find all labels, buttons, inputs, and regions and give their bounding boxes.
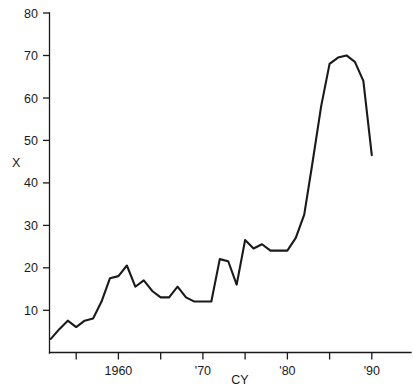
x-tick-label: 1960 (104, 364, 132, 378)
y-tick-label: 40 (24, 176, 38, 190)
x-axis-ticks (76, 353, 372, 360)
line-chart: 80 70 60 50 40 30 20 10 X 1960 '70 '80 (0, 0, 413, 391)
y-tick-label: 30 (24, 219, 38, 233)
y-tick-label: 20 (24, 261, 38, 275)
y-tick-label: 60 (24, 92, 38, 106)
x-tick-label: '90 (364, 364, 380, 378)
chart-container: 80 70 60 50 40 30 20 10 X 1960 '70 '80 (0, 0, 413, 391)
y-axis-ticks (43, 13, 50, 310)
x-tick-label: '80 (279, 364, 295, 378)
y-axis-title: X (12, 156, 21, 170)
x-tick-label: '70 (195, 364, 211, 378)
y-axis-tick-labels: 80 70 60 50 40 30 20 10 (24, 7, 38, 318)
y-tick-label: 50 (24, 134, 38, 148)
y-tick-label: 10 (24, 304, 38, 318)
y-tick-label: 70 (24, 49, 38, 63)
y-tick-label: 80 (24, 7, 38, 21)
data-series-line (51, 55, 372, 338)
x-axis-title: CY (231, 373, 249, 387)
